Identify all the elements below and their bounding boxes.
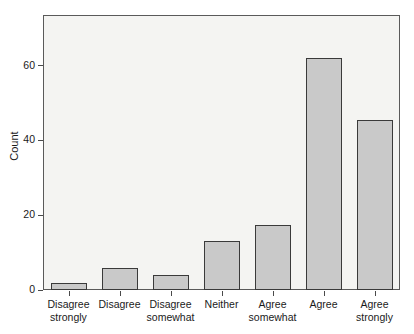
bar-agree	[306, 58, 342, 290]
bar-disagree-somewhat	[153, 275, 189, 290]
x-tick-label-line: Disagree	[98, 298, 140, 311]
x-tick-label-disagree-strongly: Disagreestrongly	[47, 298, 89, 323]
x-tick-label-agree-somewhat: Agreesomewhat	[249, 298, 297, 323]
x-tick-label-line: Disagree	[147, 298, 195, 311]
x-tick-label-line: somewhat	[249, 311, 297, 324]
x-tick-mark	[375, 291, 376, 296]
y-tick-label: 20	[23, 208, 35, 221]
y-tick-label: 40	[23, 133, 35, 146]
x-tick-label-line: Agree	[309, 298, 337, 311]
x-axis: DisagreestronglyDisagreeDisagreesomewhat…	[0, 290, 414, 334]
y-axis: Count 0204060	[0, 0, 43, 334]
bar-agree-strongly	[357, 120, 393, 290]
y-tick-mark	[38, 65, 43, 66]
x-tick-label-neither: Neither	[205, 298, 239, 311]
x-tick-mark	[324, 291, 325, 296]
bar-neither	[204, 241, 240, 290]
x-tick-mark	[69, 291, 70, 296]
x-tick-label-line: strongly	[356, 311, 393, 324]
y-tick-label: 60	[23, 59, 35, 72]
bars-layer	[43, 15, 400, 290]
x-tick-label-disagree-somewhat: Disagreesomewhat	[147, 298, 195, 323]
x-tick-mark	[222, 291, 223, 296]
x-tick-label-line: Agree	[249, 298, 297, 311]
x-tick-label-agree: Agree	[309, 298, 337, 311]
y-axis-title: Count	[8, 116, 20, 176]
x-tick-label-line: Disagree	[47, 298, 89, 311]
bar-disagree	[102, 268, 138, 290]
chart-page: Count 0204060 DisagreestronglyDisagreeDi…	[0, 0, 414, 334]
bar-agree-somewhat	[255, 225, 291, 290]
x-tick-mark	[273, 291, 274, 296]
bar-disagree-strongly	[51, 283, 87, 290]
x-tick-label-line: somewhat	[147, 311, 195, 324]
y-tick-mark	[38, 215, 43, 216]
x-tick-label-line: Agree	[356, 298, 393, 311]
x-tick-label-line: Neither	[205, 298, 239, 311]
y-tick-mark	[38, 140, 43, 141]
x-tick-label-line: strongly	[47, 311, 89, 324]
x-tick-label-agree-strongly: Agreestrongly	[356, 298, 393, 323]
x-tick-label-disagree: Disagree	[98, 298, 140, 311]
x-tick-mark	[120, 291, 121, 296]
x-tick-mark	[171, 291, 172, 296]
